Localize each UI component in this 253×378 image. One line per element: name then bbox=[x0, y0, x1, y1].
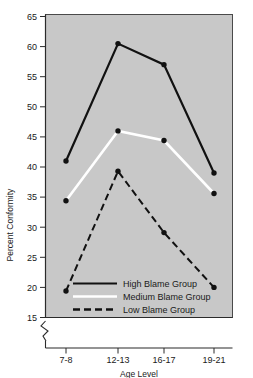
y-tick-label: 60 bbox=[27, 42, 37, 52]
x-tick-label: 16-17 bbox=[152, 355, 175, 365]
data-point bbox=[211, 170, 216, 175]
y-tick-50: 50 bbox=[27, 102, 46, 112]
y-tick-65: 65 bbox=[27, 12, 46, 22]
x-axis-ticks: 7-8 12-13 16-17 19-21 bbox=[59, 348, 225, 365]
y-tick-45: 45 bbox=[27, 132, 46, 142]
y-tick-label: 15 bbox=[27, 313, 37, 323]
y-tick-15: 15 bbox=[27, 313, 46, 323]
legend-label: Low Blame Group bbox=[123, 305, 195, 315]
x-tick-0: 7-8 bbox=[59, 348, 72, 365]
y-tick-label: 55 bbox=[27, 72, 37, 82]
x-tick-1: 12-13 bbox=[106, 348, 129, 365]
x-tick-2: 16-17 bbox=[152, 348, 175, 365]
data-point bbox=[161, 138, 166, 143]
y-axis-break-icon bbox=[41, 321, 48, 341]
x-tick-label: 12-13 bbox=[106, 355, 129, 365]
legend-label: High Blame Group bbox=[123, 279, 197, 289]
y-axis-ticks: 65 60 55 50 45 40 bbox=[27, 12, 46, 323]
x-tick-label: 19-21 bbox=[202, 355, 225, 365]
plot-area-background bbox=[46, 15, 233, 318]
data-point bbox=[161, 230, 166, 235]
y-tick-label: 35 bbox=[27, 192, 37, 202]
x-tick-3: 19-21 bbox=[202, 348, 225, 365]
y-tick-25: 25 bbox=[27, 253, 46, 263]
line-chart: 65 60 55 50 45 40 bbox=[0, 0, 253, 378]
y-tick-20: 20 bbox=[27, 283, 46, 293]
data-point bbox=[63, 158, 68, 163]
y-tick-label: 45 bbox=[27, 132, 37, 142]
legend-label: Medium Blame Group bbox=[123, 292, 211, 302]
y-tick-40: 40 bbox=[27, 162, 46, 172]
y-tick-35: 35 bbox=[27, 192, 46, 202]
data-point bbox=[211, 285, 216, 290]
y-tick-label: 20 bbox=[27, 283, 37, 293]
y-tick-label: 40 bbox=[27, 162, 37, 172]
y-tick-55: 55 bbox=[27, 72, 46, 82]
chart-container: 65 60 55 50 45 40 bbox=[0, 0, 253, 378]
data-point bbox=[63, 198, 68, 203]
x-tick-label: 7-8 bbox=[59, 355, 72, 365]
data-point bbox=[161, 62, 166, 67]
y-axis-title: Percent Conformity bbox=[5, 188, 15, 261]
y-tick-60: 60 bbox=[27, 42, 46, 52]
data-point bbox=[211, 191, 216, 196]
y-tick-label: 50 bbox=[27, 102, 37, 112]
data-point bbox=[115, 41, 120, 46]
y-tick-30: 30 bbox=[27, 223, 46, 233]
data-point bbox=[115, 169, 120, 174]
x-axis-title: Age Level bbox=[120, 369, 158, 378]
y-tick-label: 25 bbox=[27, 253, 37, 263]
y-tick-label: 65 bbox=[27, 12, 37, 22]
y-tick-label: 30 bbox=[27, 223, 37, 233]
data-point bbox=[115, 128, 120, 133]
data-point bbox=[63, 288, 68, 293]
